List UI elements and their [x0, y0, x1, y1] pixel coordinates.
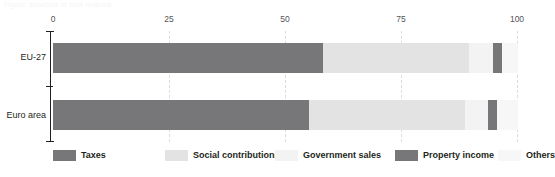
- bar-euro-area: [53, 100, 518, 130]
- bar-segment-eu-27-government-sales: [469, 43, 493, 73]
- bar-segment-euro-area-social-contributions: [309, 100, 465, 130]
- legend-swatch-property-income-icon: [395, 150, 418, 161]
- y-category-label-eu27: EU-27: [20, 52, 46, 63]
- bar-segment-euro-area-others: [497, 100, 518, 130]
- legend-swatch-others-icon: [498, 150, 521, 161]
- bar-eu27: [53, 43, 518, 73]
- legend-swatch-social-contributions-icon: [165, 150, 188, 161]
- bar-segment-eu-27-social-contributions: [323, 43, 469, 73]
- y-axis-tick-top: [46, 31, 53, 32]
- plot-area: [53, 31, 518, 142]
- bar-segment-euro-area-government-sales: [465, 100, 488, 130]
- x-tick-50: 50: [265, 14, 305, 24]
- chart-caption: Figure: structure of total revenue: [4, 0, 204, 9]
- legend-label-social-contributions: Social contributions: [193, 150, 280, 161]
- x-tick-75: 75: [381, 14, 421, 24]
- legend-swatch-taxes-icon: [53, 150, 76, 161]
- legend-label-government-sales: Government sales: [303, 150, 381, 161]
- bar-segment-eu-27-taxes: [53, 43, 323, 73]
- y-category-label-euro-area: Euro area: [6, 110, 46, 121]
- x-tick-100: 100: [497, 14, 537, 24]
- y-axis-tick-bottom: [46, 141, 53, 142]
- legend-swatch-government-sales-icon: [275, 150, 298, 161]
- legend-label-property-income: Property income: [423, 150, 494, 161]
- bar-segment-euro-area-taxes: [53, 100, 309, 130]
- chart-legend: TaxesSocial contributionsGovernment sale…: [53, 148, 523, 164]
- x-tick-0: 0: [33, 14, 73, 24]
- x-tick-25: 25: [149, 14, 189, 24]
- bar-segment-eu-27-others: [502, 43, 518, 73]
- bar-segment-eu-27-property-income: [493, 43, 502, 73]
- legend-label-taxes: Taxes: [81, 150, 106, 161]
- bar-segment-euro-area-property-income: [488, 100, 497, 130]
- y-axis-tick-middle: [46, 86, 53, 87]
- legend-label-others: Others: [526, 150, 555, 161]
